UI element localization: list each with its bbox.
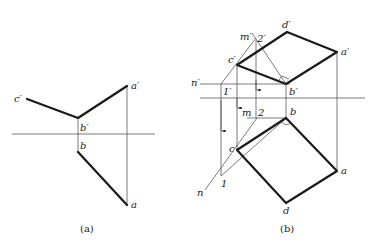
figure-b: m′ 2′ d′ a′ c′ n′ 1′ b′ m 2 b c 1 n a d … <box>191 19 365 234</box>
top-view-ba <box>78 152 127 205</box>
descriptive-geometry-figure: c′ b′ a′ b a (a) m′ 2 <box>0 0 376 249</box>
label-1: 1 <box>221 178 227 189</box>
right-angle-mark-bprime <box>279 76 289 80</box>
label-n-prime: n′ <box>191 77 200 88</box>
label-b-a: b <box>80 140 86 151</box>
label-b-prime-b: b′ <box>289 86 298 97</box>
front-view-square <box>237 32 337 84</box>
label-m: m <box>242 107 251 118</box>
label-m-prime: m′ <box>240 31 252 42</box>
label-a-b: a <box>341 165 347 176</box>
caption-a: (a) <box>80 223 94 234</box>
label-2: 2 <box>257 107 264 118</box>
line-1prime-apex <box>221 38 256 84</box>
n-line <box>205 118 257 190</box>
label-d: d <box>283 205 289 216</box>
label-c-prime-b: c′ <box>228 54 237 65</box>
top-view-square <box>237 118 337 203</box>
label-c: c <box>229 143 235 154</box>
figure-a: c′ b′ a′ b a (a) <box>12 80 155 234</box>
label-b-b: b <box>290 106 296 117</box>
front-view-cba <box>27 86 127 118</box>
label-n: n <box>197 187 203 198</box>
label-d-prime: d′ <box>282 19 291 30</box>
label-a-prime-b: a′ <box>341 46 350 57</box>
label-b-prime-a: b′ <box>80 122 89 133</box>
label-2-prime: 2′ <box>256 33 266 44</box>
label-1-prime: 1′ <box>223 86 232 97</box>
caption-b: (b) <box>280 223 294 234</box>
label-a-a: a <box>131 199 137 210</box>
label-c-prime-a: c′ <box>14 93 23 104</box>
label-a-prime-a: a′ <box>131 80 140 91</box>
